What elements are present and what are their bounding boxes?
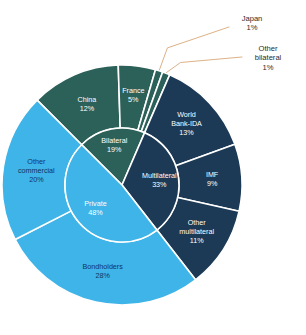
sunburst-chart: Bilateral19%Multilateral33%Private48%Chi… [0, 0, 306, 335]
inner-ring-group [65, 128, 179, 242]
leader-line-japan [159, 27, 229, 70]
callout-japan-line2: 1% [225, 23, 279, 32]
callout-japan-line1: Japan [225, 14, 279, 23]
callout-other-bilateral-line3: 1% [238, 63, 298, 72]
callout-other-bilateral-line2: bilateral [238, 53, 298, 62]
leader-line-other-bilateral [167, 57, 243, 73]
callout-japan: Japan 1% [225, 14, 279, 33]
callout-other-bilateral-line1: Other [238, 44, 298, 53]
leader-lines-group [159, 27, 242, 73]
callout-other-bilateral: Other bilateral 1% [238, 44, 298, 72]
